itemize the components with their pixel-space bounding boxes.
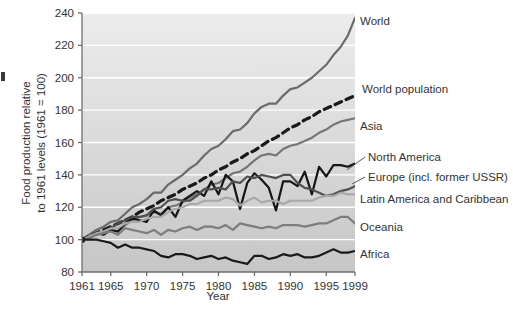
series-label-oceania: Oceania	[360, 221, 403, 233]
x-tick-label: 1970	[134, 280, 160, 292]
y-tick-label: 160	[55, 137, 74, 149]
y-tick-label: 180	[55, 104, 74, 116]
series-label-world-population: World population	[362, 83, 448, 95]
x-tick-label: 1995	[313, 280, 339, 292]
x-tick-label: 1990	[278, 280, 304, 292]
y-tick-label: 100	[55, 234, 74, 246]
series-label-europe-incl-former-ussr: Europe (incl. former USSR)	[368, 171, 508, 183]
x-tick-label: 1961	[69, 280, 95, 292]
series-label-latin-america-and-caribbean: Latin America and Caribbean	[360, 193, 508, 205]
y-tick-label: 120	[55, 201, 74, 213]
chart-canvas: 80100120140160180200220240 1961196519701…	[0, 0, 513, 318]
y-axis-title-line2: to 1961 levels (1961 = 100)	[35, 73, 47, 213]
x-tick-label: 1965	[98, 280, 124, 292]
food-production-line-chart: 80100120140160180200220240 1961196519701…	[0, 0, 513, 318]
y-tick-label: 140	[55, 169, 74, 181]
left-edge-artifact	[1, 72, 5, 81]
x-tick-label: 1985	[242, 280, 268, 292]
series-label-asia: Asia	[360, 120, 383, 132]
x-axis-title: Year	[206, 290, 229, 302]
y-tick-label: 200	[55, 72, 74, 84]
y-tick-labels: 80100120140160180200220240	[55, 7, 74, 278]
y-tick-label: 240	[55, 7, 74, 19]
x-tick-label: 1975	[170, 280, 196, 292]
series-label-north-america: North America	[368, 151, 441, 163]
y-axis-title-line1: Food production relative	[20, 81, 32, 204]
y-tick-label: 220	[55, 39, 74, 51]
series-label-africa: Africa	[360, 248, 390, 260]
series-label-world: World	[360, 15, 390, 27]
y-tick-label: 80	[61, 266, 74, 278]
x-tick-label: 1999	[342, 280, 368, 292]
